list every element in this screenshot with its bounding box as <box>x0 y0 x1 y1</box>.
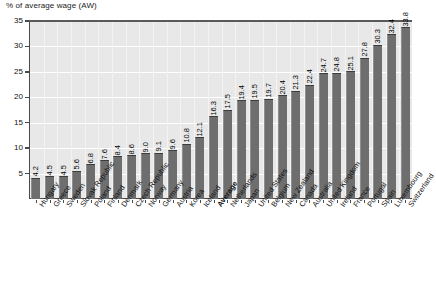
bar-value-label: 6.8 <box>86 153 95 163</box>
bar-value-label: 19.5 <box>250 84 259 99</box>
bar-slot: 24.7 <box>319 21 328 199</box>
bar-value-label: 24.8 <box>332 57 341 72</box>
bar-slot: 32.4 <box>387 21 396 199</box>
bar-slot: 17.5 <box>223 21 232 199</box>
bar-slot: 19.4 <box>237 21 246 199</box>
bar-slot: 27.8 <box>360 21 369 199</box>
bar <box>360 58 369 199</box>
bar-value-label: 4.5 <box>59 165 68 175</box>
bar-slot: 5.6 <box>72 21 81 199</box>
bar-value-label: 21.3 <box>291 75 300 90</box>
bar-value-label: 20.4 <box>278 80 287 95</box>
bar-value-label: 9.1 <box>154 141 163 151</box>
y-axis-tick-label: 25 <box>1 67 23 76</box>
y-axis-tick-label: 10 <box>1 143 23 152</box>
bar-value-label: 27.8 <box>360 42 369 57</box>
bar-value-label: 9.0 <box>141 142 150 152</box>
bar-value-label: 32.4 <box>387 19 396 34</box>
bar-value-label: 4.2 <box>31 166 40 176</box>
bar-slot: 30.3 <box>373 21 382 199</box>
bar-value-label: 9.6 <box>168 139 177 149</box>
bar-value-label: 12.1 <box>195 122 204 137</box>
bar-value-label: 17.5 <box>223 94 232 109</box>
bar-value-label: 25.1 <box>346 56 355 71</box>
y-axis-tick-label: 20 <box>1 92 23 101</box>
bar-value-label: 4.5 <box>45 165 54 175</box>
y-axis-tick-label: 30 <box>1 41 23 50</box>
bar <box>401 27 410 199</box>
bar-value-label: 8.4 <box>113 145 122 155</box>
bar-value-label: 16.3 <box>209 101 218 116</box>
bar-value-label: 24.7 <box>319 58 328 73</box>
y-axis-tick-label: 5 <box>1 169 23 178</box>
bar-slot: 9.0 <box>141 21 150 199</box>
bar-slot: 19.7 <box>264 21 273 199</box>
bar-value-label: 7.6 <box>100 149 109 159</box>
bar-slot: 8.4 <box>113 21 122 199</box>
bar-slot: 24.8 <box>332 21 341 199</box>
bar-slot: 4.5 <box>45 21 54 199</box>
y-axis-tick-label: 15 <box>1 118 23 127</box>
bar-slot: 21.3 <box>291 21 300 199</box>
bar-value-label: 22.4 <box>305 69 314 84</box>
x-axis-labels: HungaryGreeceSwedenSlovak RepublicPoland… <box>29 200 412 281</box>
bar-slot: 9.6 <box>168 21 177 199</box>
bar-value-label: 33.8 <box>401 12 410 27</box>
bar <box>387 34 396 199</box>
bar <box>373 45 382 199</box>
bar-value-label: 19.4 <box>237 85 246 100</box>
bar-slot: 6.8 <box>86 21 95 199</box>
bar-value-label: 5.6 <box>72 159 81 169</box>
bar-value-label: 19.7 <box>264 83 273 98</box>
bar-slot: 10.8 <box>182 21 191 199</box>
bar-slot: 4.2 <box>31 21 40 199</box>
y-axis-tick-label: 35 <box>1 16 23 25</box>
y-axis-title: % of average wage (AW) <box>6 1 97 10</box>
bar-value-label: 8.6 <box>127 144 136 154</box>
bar-slot: 16.3 <box>209 21 218 199</box>
bar-slot: 33.8 <box>401 21 410 199</box>
bar-slot: 4.5 <box>59 21 68 199</box>
bar-value-label: 10.8 <box>182 128 191 143</box>
bar <box>31 178 40 199</box>
bar-value-label: 30.3 <box>373 29 382 44</box>
bar-slot: 12.1 <box>195 21 204 199</box>
bar-slot: 8.6 <box>127 21 136 199</box>
